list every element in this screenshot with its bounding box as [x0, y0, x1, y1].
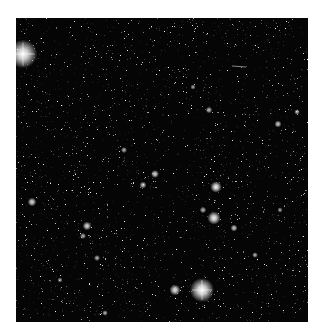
star-field-image: [16, 18, 308, 322]
star-field-canvas: [16, 18, 308, 322]
